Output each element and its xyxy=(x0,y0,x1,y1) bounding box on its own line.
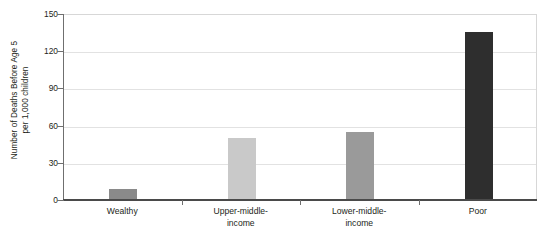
x-axis-category-labels: WealthyUpper-middle-incomeLower-middle-i… xyxy=(63,206,537,251)
y-axis-tick-label: 90 xyxy=(28,84,58,93)
plot-frame xyxy=(63,14,537,200)
bar-lower-middle-income xyxy=(346,132,374,199)
bar-upper-middle-income xyxy=(228,138,256,199)
x-axis-category-label: Wealthy xyxy=(62,206,182,218)
bar-poor xyxy=(465,32,493,199)
y-axis-tick-mark xyxy=(57,200,64,201)
x-axis-tick-mark xyxy=(419,200,420,205)
y-axis-tick-mark xyxy=(57,163,64,164)
bar-wealthy xyxy=(109,189,137,199)
y-axis-tick-label: 60 xyxy=(28,121,58,130)
x-axis-category-label-line: income xyxy=(181,218,301,230)
y-axis-tick-mark xyxy=(57,88,64,89)
y-axis-tick-mark xyxy=(57,14,64,15)
y-axis-tick-label: 150 xyxy=(28,10,58,19)
y-axis-spine xyxy=(63,14,64,200)
x-axis-tick-mark xyxy=(300,200,301,205)
x-axis-category-label-line: Poor xyxy=(418,206,538,218)
x-axis-category-label-line: Lower-middle- xyxy=(299,206,419,218)
y-axis-tick-mark xyxy=(57,126,64,127)
y-axis-tick-mark xyxy=(57,51,64,52)
y-axis-tick-label: 120 xyxy=(28,47,58,56)
y-axis-tick-labels: 0306090120150 xyxy=(28,0,58,200)
x-axis-category-label: Lower-middle-income xyxy=(299,206,419,229)
x-axis-category-label: Poor xyxy=(418,206,538,218)
bar-chart-figure: Number of Deaths Before Age 5 per 1,000 … xyxy=(0,0,544,251)
x-axis-category-label-line: Wealthy xyxy=(62,206,182,218)
x-axis-tick-mark xyxy=(182,200,183,205)
y-axis-title-line-1: Number of Deaths Before Age 5 xyxy=(9,41,20,159)
x-axis-category-label-line: Upper-middle- xyxy=(181,206,301,218)
plot-area xyxy=(64,15,536,199)
y-axis-tick-label: 0 xyxy=(28,196,58,205)
y-axis-tick-label: 30 xyxy=(28,158,58,167)
x-axis-category-label: Upper-middle-income xyxy=(181,206,301,229)
x-axis-category-label-line: income xyxy=(299,218,419,230)
